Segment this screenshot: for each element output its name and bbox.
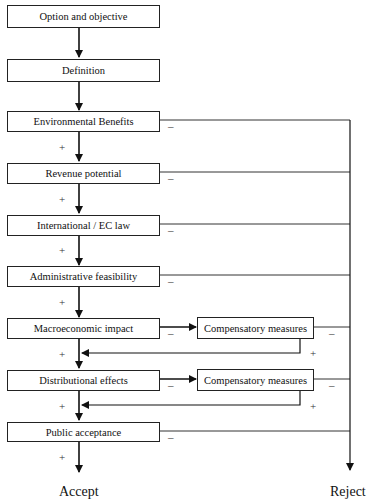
minus-sign: – — [168, 121, 174, 132]
minus-sign: – — [168, 328, 174, 339]
plus-sign: + — [59, 245, 65, 256]
step-revenue-potential: Revenue potential — [7, 163, 160, 184]
plus-sign: + — [59, 142, 65, 153]
step-label: Environmental Benefits — [33, 116, 133, 127]
step-label: Administrative feasibility — [30, 271, 138, 282]
plus-sign: + — [59, 401, 65, 412]
minus-sign: – — [329, 380, 335, 391]
outcome-reject: Reject — [330, 484, 366, 500]
minus-sign: – — [168, 225, 174, 236]
step-label: Public acceptance — [46, 427, 122, 438]
plus-sign: + — [59, 452, 65, 463]
step-label: International / EC law — [37, 220, 130, 231]
step-label: Option and objective — [39, 11, 127, 22]
compensatory-label: Compensatory measures — [204, 323, 307, 334]
step-label: Revenue potential — [45, 168, 121, 179]
step-definition: Definition — [7, 59, 160, 82]
step-public-acceptance: Public acceptance — [7, 422, 160, 442]
step-label: Distributional effects — [39, 375, 128, 386]
outcome-accept: Accept — [59, 484, 99, 500]
step-international-ec-law: International / EC law — [7, 215, 160, 236]
plus-sign: + — [59, 297, 65, 308]
minus-sign: – — [168, 380, 174, 391]
step-macroeconomic-impact: Macroeconomic impact — [7, 318, 160, 339]
step-label: Definition — [62, 65, 105, 76]
compensatory-measures-box-1: Compensatory measures — [197, 317, 314, 339]
minus-sign: – — [329, 328, 335, 339]
minus-sign: – — [168, 276, 174, 287]
plus-sign: + — [59, 194, 65, 205]
compensatory-label: Compensatory measures — [204, 375, 307, 386]
step-administrative-feasibility: Administrative feasibility — [7, 266, 160, 287]
step-option-and-objective: Option and objective — [7, 5, 160, 28]
minus-sign: – — [168, 432, 174, 443]
step-label: Macroeconomic impact — [34, 323, 133, 334]
step-distributional-effects: Distributional effects — [7, 370, 160, 391]
step-environmental-benefits: Environmental Benefits — [7, 111, 160, 132]
plus-sign: + — [59, 349, 65, 360]
compensatory-measures-box-2: Compensatory measures — [197, 369, 314, 391]
plus-sign: + — [310, 401, 316, 412]
plus-sign: + — [310, 348, 316, 359]
minus-sign: – — [168, 173, 174, 184]
